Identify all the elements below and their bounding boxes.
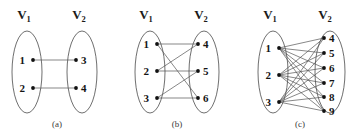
vertex-dot-1	[31, 58, 35, 62]
vertex-label-7: 7	[329, 77, 335, 89]
edge-3-9	[279, 102, 324, 111]
vertex-label-4: 4	[329, 32, 335, 44]
set-label-v1: V1	[139, 7, 153, 24]
set-label-v1: V1	[263, 7, 277, 24]
edge-3-6	[279, 68, 324, 102]
vertex-set-ellipse-v2	[67, 31, 97, 113]
panel-caption-a: (a)	[52, 119, 62, 129]
edge-1-4	[279, 38, 324, 48]
edge-1-8	[279, 48, 324, 97]
vertex-label-1: 1	[144, 38, 150, 50]
vertex-label-6: 6	[329, 62, 335, 74]
vertex-label-2: 2	[266, 69, 272, 81]
vertex-label-4: 4	[203, 38, 209, 50]
set-label-v2: V2	[194, 7, 208, 24]
edge-2-7	[279, 75, 324, 83]
vertex-set-ellipse-v1	[135, 31, 165, 113]
vertex-label-2: 2	[144, 65, 150, 77]
vertex-label-3: 3	[144, 92, 150, 104]
panel-b: 123456V1V2(b)	[135, 7, 219, 129]
vertex-dot-1	[155, 42, 159, 46]
panel-c: 123456789V1V2(c)	[258, 7, 345, 129]
set-label-v1: V1	[17, 7, 31, 24]
vertex-set-ellipse-v1	[12, 31, 42, 113]
panel-caption-b: (b)	[172, 119, 183, 129]
set-label-v2: V2	[318, 7, 332, 24]
bipartite-graph-figure: 1234V1V2(a)123456V1V2(b)123456789V1V2(c)	[0, 0, 362, 137]
vertex-dot-8	[322, 95, 326, 99]
panel-caption-c: (c)	[295, 119, 305, 129]
vertex-dot-2	[31, 86, 35, 90]
vertex-dot-4	[322, 36, 326, 40]
vertex-set-ellipse-v1	[258, 31, 288, 113]
vertex-dot-2	[155, 69, 159, 73]
vertex-dot-4	[74, 86, 78, 90]
vertex-dot-1	[277, 46, 281, 50]
vertex-dot-4	[196, 42, 200, 46]
edge-2-4	[157, 44, 198, 71]
vertex-dot-6	[322, 66, 326, 70]
edge-3-5	[157, 71, 198, 98]
vertex-label-4: 4	[81, 82, 87, 94]
vertex-dot-3	[155, 96, 159, 100]
vertex-label-3: 3	[266, 96, 272, 108]
vertex-label-5: 5	[203, 65, 209, 77]
vertex-label-1: 1	[20, 54, 26, 66]
vertex-label-2: 2	[20, 82, 26, 94]
vertex-dot-3	[74, 58, 78, 62]
vertex-dot-5	[196, 69, 200, 73]
vertex-dot-2	[277, 73, 281, 77]
figure-canvas: 1234V1V2(a)123456V1V2(b)123456789V1V2(c)	[0, 0, 362, 137]
vertex-label-5: 5	[329, 47, 335, 59]
vertex-dot-6	[196, 96, 200, 100]
vertex-label-9: 9	[329, 105, 335, 117]
vertex-dot-7	[322, 81, 326, 85]
vertex-dot-9	[322, 109, 326, 113]
vertex-dot-3	[277, 100, 281, 104]
vertex-label-8: 8	[329, 91, 335, 103]
vertex-label-3: 3	[81, 54, 87, 66]
set-label-v2: V2	[72, 7, 86, 24]
vertex-label-6: 6	[203, 92, 209, 104]
panel-a: 1234V1V2(a)	[12, 7, 97, 129]
vertex-dot-5	[322, 51, 326, 55]
vertex-label-1: 1	[266, 42, 272, 54]
